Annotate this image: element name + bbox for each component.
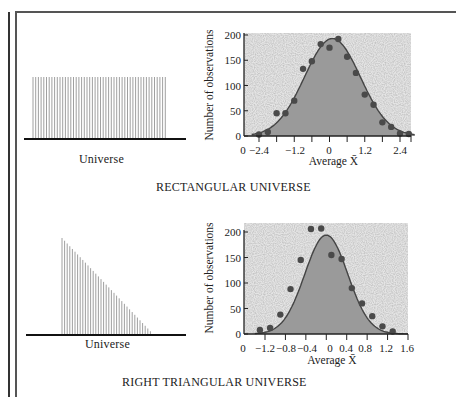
x-tick-label: 1.6 bbox=[400, 342, 414, 354]
data-point bbox=[379, 119, 385, 125]
triangular-universe-diagram bbox=[26, 238, 186, 335]
universe-label-triangular: Universe bbox=[85, 337, 130, 352]
x-tick-label: 0 bbox=[240, 342, 246, 354]
data-point bbox=[344, 54, 350, 60]
x-tick-label: −1.2 bbox=[255, 342, 275, 354]
y-tick-label: 200 bbox=[225, 226, 242, 238]
data-point bbox=[335, 36, 341, 42]
data-point bbox=[291, 97, 297, 103]
x-tick-label: 0.8 bbox=[358, 342, 372, 354]
x-tick-label: 2.4 bbox=[393, 144, 407, 156]
triangular-sampling-chart: 0501001502000−1.2−0.8−0.400.40.81.21.6Nu… bbox=[203, 222, 414, 367]
y-tick-label: 200 bbox=[225, 29, 242, 41]
x-tick-label: 1.2 bbox=[358, 144, 372, 156]
x-tick-label: −1.2 bbox=[285, 144, 305, 156]
data-point bbox=[273, 110, 279, 116]
universe-label-rectangular: Universe bbox=[79, 152, 124, 167]
data-point bbox=[326, 44, 332, 50]
data-point bbox=[265, 129, 271, 135]
data-point bbox=[257, 327, 263, 333]
rectangular-universe-diagram bbox=[24, 77, 186, 139]
data-point bbox=[388, 124, 394, 130]
data-point bbox=[379, 323, 385, 329]
data-point bbox=[308, 226, 314, 232]
data-point bbox=[349, 285, 355, 291]
x-tick-label: −0.4 bbox=[297, 342, 317, 354]
y-tick-label: 50 bbox=[230, 303, 242, 315]
data-point bbox=[282, 110, 288, 116]
y-tick-label: 0 bbox=[236, 130, 242, 142]
data-point bbox=[362, 91, 368, 97]
y-tick-label: 150 bbox=[225, 54, 242, 66]
x-axis-label: Average X̄ bbox=[307, 354, 357, 367]
y-tick-label: 0 bbox=[236, 328, 242, 340]
caption-triangular-universe: RIGHT TRIANGULAR UNIVERSE bbox=[122, 375, 307, 390]
data-point bbox=[267, 325, 273, 331]
x-tick-label: 0 bbox=[327, 342, 333, 354]
x-axis-label: Average X̄ bbox=[309, 155, 359, 168]
data-point bbox=[370, 101, 376, 107]
data-point bbox=[309, 58, 315, 64]
rectangular-sampling-chart: 0501001502000−2.4−1.201.22.4Number of ob… bbox=[203, 29, 415, 168]
x-tick-label: 1.2 bbox=[379, 342, 393, 354]
data-point bbox=[328, 252, 334, 258]
data-point bbox=[369, 313, 375, 319]
x-tick-label: 0 bbox=[240, 144, 246, 156]
figure-canvas: 0501001502000−2.4−1.201.22.4Number of ob… bbox=[0, 0, 456, 397]
y-tick-label: 50 bbox=[230, 105, 242, 117]
data-point bbox=[338, 256, 344, 262]
data-point bbox=[287, 286, 293, 292]
y-tick-label: 100 bbox=[225, 277, 242, 289]
x-tick-label: −2.4 bbox=[249, 144, 269, 156]
data-point bbox=[298, 257, 304, 263]
data-point bbox=[318, 225, 324, 231]
x-tick-label: −0.8 bbox=[276, 342, 296, 354]
y-tick-label: 100 bbox=[225, 80, 242, 92]
data-point bbox=[317, 41, 323, 47]
data-point bbox=[300, 66, 306, 72]
data-point bbox=[277, 311, 283, 317]
data-point bbox=[353, 70, 359, 76]
y-tick-label: 150 bbox=[225, 252, 242, 264]
y-axis-label: Number of observations bbox=[203, 222, 215, 334]
y-axis-label: Number of observations bbox=[203, 29, 215, 141]
x-tick-label: 0.4 bbox=[339, 342, 353, 354]
data-point bbox=[359, 300, 365, 306]
caption-rectangular-universe: RECTANGULAR UNIVERSE bbox=[156, 180, 311, 195]
